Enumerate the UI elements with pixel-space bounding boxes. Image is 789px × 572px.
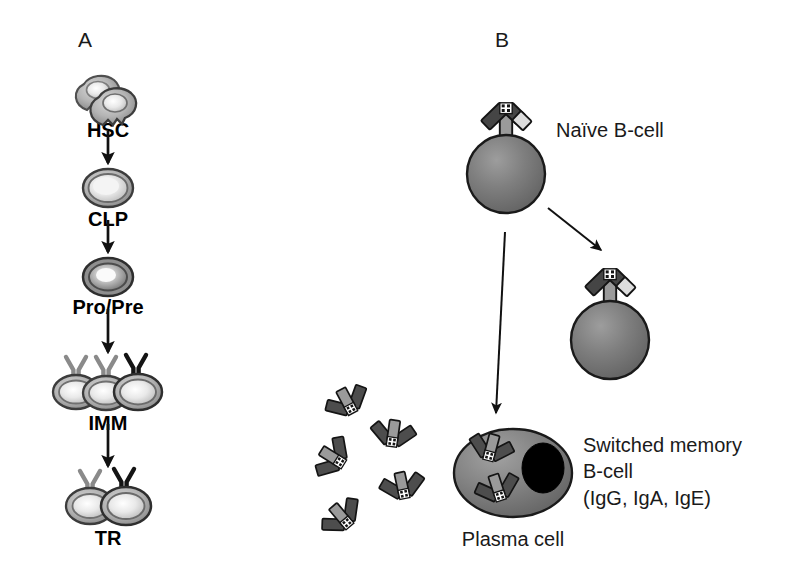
cell-clp <box>83 169 133 207</box>
cell-hsc <box>76 76 136 125</box>
cell-plasma <box>454 429 572 517</box>
secreted-antibody-5 <box>315 491 368 542</box>
figure-canvas: A B HSC CLP Pro/Pre IMM TR Naïve B-cell … <box>0 0 789 572</box>
secreted-antibodies <box>309 379 428 542</box>
arrow-naive-to-plasma <box>496 232 505 413</box>
arrow-naive-to-memory <box>548 208 601 250</box>
panel-a-graphics <box>53 76 162 525</box>
cell-propre <box>83 258 133 296</box>
hsc-nucleus-front <box>103 94 127 112</box>
naive-b-cell-receptor <box>481 103 532 136</box>
panel-b-graphics <box>309 103 649 542</box>
secreted-antibody-3 <box>309 430 356 484</box>
cell-switched-memory-b <box>571 269 649 379</box>
memory-b-cell-body <box>571 301 649 379</box>
secreted-antibody-4 <box>376 468 427 504</box>
secreted-antibody-1 <box>320 379 374 425</box>
cell-naive-b <box>467 103 545 213</box>
naive-b-cell-body <box>467 135 545 213</box>
cell-imm <box>53 355 162 410</box>
diagram-graphics <box>0 0 789 572</box>
plasma-cell-nucleus <box>522 443 564 493</box>
secreted-antibody-2 <box>368 417 418 450</box>
cell-tr <box>66 469 151 525</box>
memory-b-cell-receptor <box>585 269 636 302</box>
